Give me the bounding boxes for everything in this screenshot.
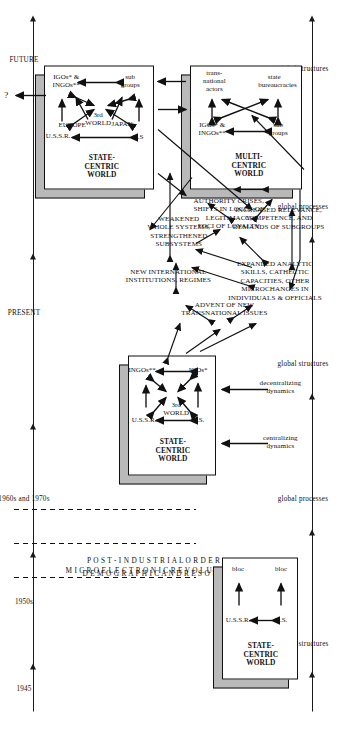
diagram-canvas: 1945 1950s 1960s and 1970s PRESENT FUTUR… [0,0,342,729]
figure-root: 1945 1950s 1960s and 1970s PRESENT FUTUR… [0,0,342,729]
flow-connectors [0,0,342,729]
